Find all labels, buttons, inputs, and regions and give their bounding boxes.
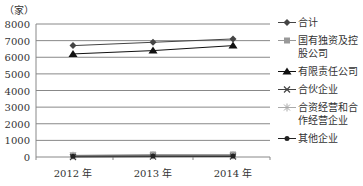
svg-text:7000: 7000 xyxy=(5,36,30,47)
legend-item: 合计 xyxy=(276,16,363,29)
legend-label: 合资经营和合作经营企业 xyxy=(298,101,363,127)
svg-text:4000: 4000 xyxy=(5,86,30,97)
svg-text:2014 年: 2014 年 xyxy=(214,167,253,179)
legend-item: 国有独资及控股公司 xyxy=(276,34,363,60)
legend-item: 合资经营和合作经营企业 xyxy=(276,101,363,127)
svg-text:8000: 8000 xyxy=(5,19,30,30)
svg-text:5000: 5000 xyxy=(5,69,30,80)
svg-text:1000: 1000 xyxy=(5,135,30,146)
legend-item: 合伙企业 xyxy=(276,83,363,96)
legend: 合计国有独资及控股公司有限责任公司合伙企业合资经营和合作经营企业其他企业 xyxy=(276,16,363,150)
svg-text:2012 年: 2012 年 xyxy=(54,167,93,179)
legend-label: 合计 xyxy=(298,16,363,29)
legend-label: 其他企业 xyxy=(298,132,363,145)
svg-text:0: 0 xyxy=(24,152,30,163)
legend-label: 国有独资及控股公司 xyxy=(298,34,363,60)
legend-item: 其他企业 xyxy=(276,132,363,145)
square-marker-icon xyxy=(276,34,298,47)
svg-text:6000: 6000 xyxy=(5,52,30,63)
circle-marker-icon xyxy=(276,132,298,145)
legend-label: 有限责任公司 xyxy=(298,65,363,78)
x-marker-icon xyxy=(276,83,298,96)
svg-text:2000: 2000 xyxy=(5,119,30,130)
legend-item: 有限责任公司 xyxy=(276,65,363,78)
legend-label: 合伙企业 xyxy=(298,83,363,96)
star-marker-icon xyxy=(276,101,298,114)
svg-text:3000: 3000 xyxy=(5,102,30,113)
diamond-marker-icon xyxy=(276,16,298,29)
svg-text:2013 年: 2013 年 xyxy=(134,167,173,179)
triangle-marker-icon xyxy=(276,65,298,78)
